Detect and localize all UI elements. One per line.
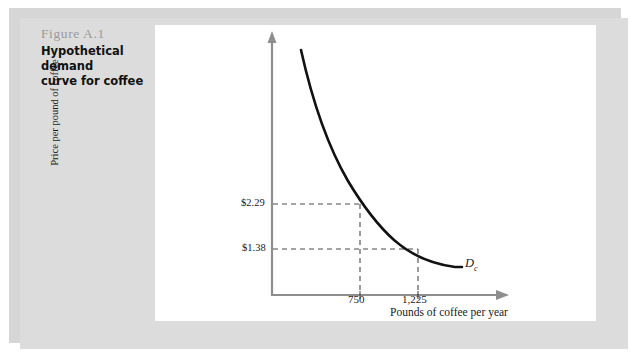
y-tick-label-229: $2.29 <box>241 197 265 208</box>
curve-label-subscript: c <box>474 263 478 273</box>
curve-label-letter: D <box>465 256 474 270</box>
x-tick-label-1225: 1,225 <box>402 293 427 305</box>
y-axis-arrowhead <box>268 31 277 43</box>
x-tick-label-750: 750 <box>348 293 365 305</box>
x-axis-label: Pounds of coffee per year <box>390 306 508 318</box>
demand-curve-chart <box>0 0 630 359</box>
y-tick-label-138: $1.38 <box>242 242 266 253</box>
y-axis-label: Price per pound of coffee <box>49 33 60 193</box>
curve-label-dc: Dc <box>465 256 478 273</box>
x-axis-arrowhead <box>496 290 509 300</box>
demand-curve-dc <box>301 50 462 267</box>
figure-page: Figure A.1 Hypothetical demand curve for… <box>0 0 630 359</box>
